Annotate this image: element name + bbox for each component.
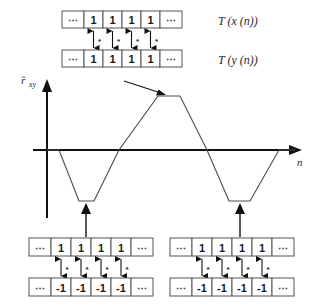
bottom-right-top-row: ⋯ 1 1 1 1 ⋯ (170, 238, 294, 256)
correlation-waveform (47, 96, 295, 201)
cell-value: -1 (116, 282, 126, 294)
bottom-right-operators: * * * * (202, 259, 271, 276)
top-label-ty: T (y (n)) (218, 53, 258, 67)
cell-value: 1 (58, 242, 64, 254)
y-axis-label-sub: xy (28, 80, 37, 89)
cell-value: ⋯ (68, 15, 78, 26)
correlation-figure: ⋯ 1 1 1 1 ⋯ * * * * (0, 0, 315, 307)
operator-symbol: * (136, 37, 140, 46)
cell-value: ⋯ (166, 15, 176, 26)
top-group-bottom-row: ⋯ 1 1 1 1 ⋯ (62, 50, 182, 67)
figure-canvas: ⋯ 1 1 1 1 ⋯ * * * * (0, 0, 315, 307)
operator-symbol: * (106, 265, 110, 274)
cell-value: ⋯ (35, 283, 45, 294)
left-trough-pointer-arrow (81, 203, 91, 237)
top-group-top-row: ⋯ 1 1 1 1 ⋯ (62, 11, 182, 28)
cell-value: ⋯ (278, 283, 288, 294)
cell-value: ⋯ (137, 243, 147, 254)
operator-symbol: * (247, 265, 251, 274)
x-axis-label: n (297, 156, 303, 168)
operator-symbol: * (267, 265, 271, 274)
cell-value: 1 (128, 14, 134, 26)
y-axis-arrowhead (42, 79, 52, 92)
operator-symbol: * (117, 37, 121, 46)
top-label-tx: T (x (n)) (218, 14, 258, 28)
cell-value: ⋯ (278, 243, 288, 254)
y-axis-label-main: r̂ (21, 74, 26, 86)
bottom-left-bottom-row: ⋯ -1 -1 -1 -1 ⋯ (29, 278, 153, 296)
operator-symbol: * (227, 265, 231, 274)
operator-symbol: * (126, 265, 130, 274)
cell-value: 1 (239, 242, 245, 254)
cell-value: -1 (217, 282, 227, 294)
bottom-right-group: ⋯ 1 1 1 1 ⋯ * * * * (170, 203, 294, 296)
cell-value: 1 (109, 53, 115, 65)
cell-value: 1 (128, 53, 134, 65)
cell-value: 1 (109, 14, 115, 26)
cell-value: 1 (259, 242, 265, 254)
operator-symbol: * (98, 37, 102, 46)
cell-value: 1 (98, 242, 104, 254)
cell-value: 1 (118, 242, 124, 254)
operator-symbol: * (155, 37, 159, 46)
top-group: ⋯ 1 1 1 1 ⋯ * * * * (62, 11, 258, 96)
cell-value: 1 (78, 242, 84, 254)
y-axis-label: r̂ xy (21, 74, 37, 89)
right-trough-pointer-arrow (235, 203, 245, 237)
operator-symbol: * (66, 265, 70, 274)
bottom-left-top-row: ⋯ 1 1 1 1 ⋯ (29, 238, 153, 256)
cell-value: ⋯ (176, 283, 186, 294)
cell-value: ⋯ (166, 54, 176, 65)
cell-value: -1 (96, 282, 106, 294)
cell-value: ⋯ (176, 243, 186, 254)
cell-value: -1 (76, 282, 86, 294)
cell-value: -1 (56, 282, 66, 294)
cell-value: 1 (90, 53, 96, 65)
cell-value: -1 (237, 282, 247, 294)
cell-value: 1 (147, 14, 153, 26)
cell-value: ⋯ (35, 243, 45, 254)
cell-value: ⋯ (137, 283, 147, 294)
bottom-right-bottom-row: ⋯ -1 -1 -1 -1 ⋯ (170, 278, 294, 296)
cell-value: -1 (257, 282, 267, 294)
operator-symbol: * (207, 265, 211, 274)
cell-value: 1 (219, 242, 225, 254)
cell-value: 1 (199, 242, 205, 254)
bottom-left-operators: * * * * (61, 259, 130, 276)
operator-symbol: * (86, 265, 90, 274)
peak-pointer-arrow (124, 81, 166, 96)
cell-value: 1 (90, 14, 96, 26)
cell-value: ⋯ (68, 54, 78, 65)
cell-value: -1 (197, 282, 207, 294)
top-group-operators: * * * * (94, 31, 160, 48)
cell-value: 1 (147, 53, 153, 65)
